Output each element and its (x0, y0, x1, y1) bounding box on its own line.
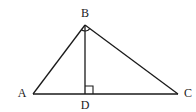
segment-ab (33, 25, 85, 94)
right-angle-marker-d (85, 86, 93, 94)
label-c: C (184, 86, 192, 100)
label-d: D (81, 98, 90, 112)
label-a: A (18, 86, 27, 100)
diagram-canvas: B A C D (0, 0, 196, 112)
label-b: B (81, 6, 89, 20)
segment-bc (85, 25, 178, 94)
triangle-diagram: B A C D (0, 0, 196, 112)
